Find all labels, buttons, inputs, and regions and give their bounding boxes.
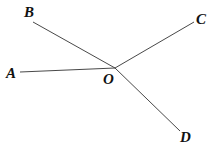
geometry-diagram: O A B C D — [0, 0, 220, 154]
rays-figure: O A B C D — [0, 0, 220, 154]
point-label-c: C — [196, 11, 207, 27]
vertex-label-o: O — [103, 71, 114, 87]
point-label-b: B — [23, 4, 34, 20]
ray-oa — [20, 68, 115, 72]
point-label-a: A — [5, 65, 16, 81]
ray-ob — [33, 22, 115, 68]
ray-od — [115, 68, 180, 131]
point-label-d: D — [179, 129, 191, 145]
ray-oc — [115, 22, 194, 68]
